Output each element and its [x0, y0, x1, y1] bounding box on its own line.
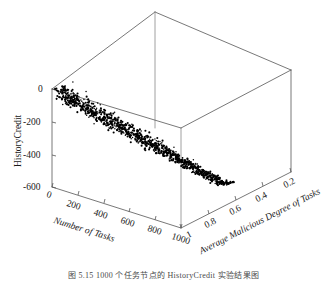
scatter-point [183, 164, 185, 166]
wall-edge-back-left [52, 12, 155, 89]
y-tick-label-minus600: -600 [23, 183, 40, 193]
scatter-point [114, 117, 116, 119]
scatter-point [63, 89, 64, 91]
scatter-point [144, 130, 146, 132]
scatter-point [196, 170, 198, 172]
scatter-point [148, 144, 150, 146]
scatter-point [162, 155, 164, 157]
scatter-point [107, 129, 109, 131]
scatter-point [73, 101, 75, 103]
scatter-point [101, 121, 103, 123]
scatter-point [71, 89, 73, 91]
scatter-point [120, 121, 122, 123]
scatter-point [65, 102, 67, 104]
scatter-point [120, 127, 122, 129]
scatter-point [100, 113, 102, 115]
scatter-point [96, 120, 98, 122]
scatter-point [88, 117, 90, 119]
scatter-point [136, 136, 138, 138]
scatter-point [83, 99, 85, 101]
scatter-point [130, 141, 132, 143]
scatter-point [62, 104, 64, 106]
scatter-point [85, 91, 87, 93]
scatter-point [88, 105, 90, 107]
scatter-point [90, 109, 92, 111]
scatter-point [56, 90, 58, 92]
scatter-point [86, 96, 88, 98]
scatter-point [184, 161, 186, 163]
scatter-point [83, 106, 85, 108]
scatter-point [130, 138, 132, 140]
scatter-point [86, 115, 88, 117]
scatter-point [73, 96, 75, 98]
z-tick-0.8 [208, 210, 209, 214]
scatter-point [230, 182, 232, 184]
scatter-point [75, 103, 77, 105]
scatter-point [81, 101, 83, 103]
scatter-point [194, 172, 196, 174]
scatter-point [188, 163, 190, 165]
y-tick-200 [52, 122, 56, 123]
scatter-point [116, 120, 118, 122]
z-tick-0.6 [235, 196, 236, 200]
y-axis-ticks [52, 89, 56, 188]
scatter-point [228, 183, 230, 185]
scatter-point [171, 157, 173, 159]
scatter-point [170, 153, 172, 155]
scatter-point [85, 102, 87, 104]
scatter-point [97, 113, 99, 115]
scatter-point [100, 119, 102, 121]
scatter-point [144, 148, 146, 150]
scatter-point [195, 163, 197, 165]
scatter-point [73, 92, 75, 94]
scatter-point [144, 144, 146, 146]
scatter-point [127, 130, 129, 132]
scatter-point [149, 146, 151, 148]
scatter-point [175, 151, 177, 153]
scatter-point [79, 101, 81, 103]
scatter-point [121, 128, 123, 130]
scatter-point [186, 157, 188, 159]
scatter-point [135, 133, 137, 135]
scatter-point [173, 147, 175, 149]
scatter-point [78, 96, 80, 98]
scatter-point [108, 124, 110, 126]
scatter-point [189, 168, 191, 170]
scatter-point [109, 128, 111, 130]
scatter-point [110, 117, 112, 119]
scatter-point [71, 96, 73, 98]
scatter-point [142, 138, 144, 140]
scatter-point [146, 136, 148, 138]
scatter-point [120, 123, 122, 125]
scatter-point [153, 149, 155, 151]
floor-diag-right [181, 70, 291, 128]
x-tick-200 [78, 191, 79, 195]
scatter-point [216, 183, 218, 185]
scatter-point [82, 109, 84, 111]
scatter-point [148, 140, 150, 142]
scatter-point [64, 88, 66, 90]
scatter-point [155, 142, 157, 144]
scatter-point [74, 100, 76, 102]
scatter-point [86, 105, 88, 107]
figure-container: HistoryCredit 0 -200 -400 -600 0 200 400… [0, 0, 327, 284]
scatter-point [225, 183, 227, 185]
scatter-point [156, 137, 158, 139]
scatter-point [104, 123, 106, 125]
scatter-point [80, 99, 82, 101]
scatter-point [64, 98, 66, 100]
scatter-point [204, 172, 206, 174]
y-tick-label-minus400: -400 [23, 151, 40, 161]
scatter-point [108, 117, 110, 119]
scatter-point [114, 122, 116, 124]
scatter-point [99, 104, 101, 106]
scatter-point [58, 96, 60, 98]
scatter-point [167, 155, 169, 157]
scatter-point [91, 107, 93, 109]
scatter-point [125, 128, 127, 130]
scatter-point [126, 132, 128, 134]
scatter-point [77, 102, 79, 104]
scatter-point [155, 145, 157, 147]
scatter-point [116, 117, 118, 119]
scatter-point [193, 159, 195, 161]
